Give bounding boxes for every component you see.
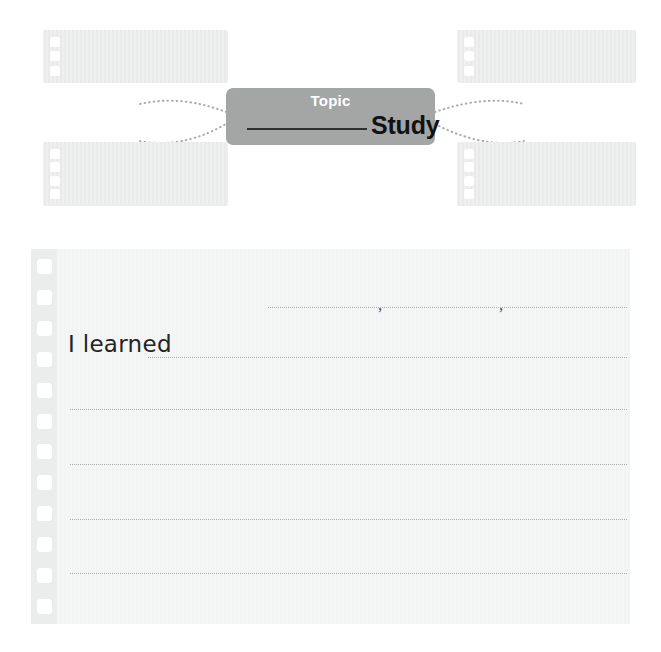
worksheet-page: Topic Study , , <box>0 0 661 652</box>
punch-hole-icon <box>37 352 52 367</box>
punch-hole-icon <box>50 189 60 199</box>
notebook-texture <box>31 249 630 624</box>
writing-line-1[interactable] <box>268 307 627 308</box>
writing-line-2[interactable] <box>148 357 627 358</box>
punch-hole-icon <box>37 290 52 305</box>
graphic-organizer: Topic Study <box>0 0 661 225</box>
notebook-paper: , , I learned <box>31 249 630 624</box>
connector-bottom-left <box>140 124 226 143</box>
note-paper-texture <box>457 142 636 206</box>
punch-hole-icon <box>50 37 60 47</box>
note-paper-texture <box>457 30 636 83</box>
punch-holes <box>462 30 475 83</box>
topic-label: Topic <box>226 92 435 110</box>
notebook-punch-holes <box>36 259 52 614</box>
connector-top-right <box>435 101 524 112</box>
punch-hole-icon <box>37 414 52 429</box>
punch-hole-icon <box>464 37 474 47</box>
punch-hole-icon <box>50 176 60 186</box>
writing-line-5[interactable] <box>70 519 627 520</box>
study-label: Study <box>371 110 439 140</box>
punch-hole-icon <box>37 383 52 398</box>
punch-hole-icon <box>464 189 474 199</box>
punch-hole-icon <box>37 475 52 490</box>
punch-holes <box>48 30 61 83</box>
note-box-top-left[interactable] <box>43 30 228 83</box>
punch-hole-icon <box>50 149 60 159</box>
writing-line-6[interactable] <box>70 573 627 574</box>
punch-hole-icon <box>50 162 60 172</box>
writing-line-4[interactable] <box>70 464 627 465</box>
punch-hole-icon <box>464 149 474 159</box>
i-learned-prompt: I learned <box>68 331 172 357</box>
topic-card[interactable]: Topic Study <box>226 88 435 145</box>
topic-blank-line[interactable] <box>247 128 367 130</box>
punch-hole-icon <box>464 162 474 172</box>
punch-hole-icon <box>464 66 474 76</box>
note-paper-texture <box>43 30 228 83</box>
note-box-bottom-left[interactable] <box>43 142 228 206</box>
punch-hole-icon <box>464 176 474 186</box>
punch-hole-icon <box>37 537 52 552</box>
comma-mark-1: , <box>378 301 382 309</box>
punch-hole-icon <box>37 599 52 614</box>
punch-hole-icon <box>37 259 52 274</box>
comma-mark-2: , <box>499 301 503 309</box>
punch-holes <box>462 142 475 206</box>
punch-hole-icon <box>37 444 52 459</box>
punch-hole-icon <box>37 321 52 336</box>
punch-hole-icon <box>464 51 474 61</box>
note-paper-texture <box>43 142 228 206</box>
punch-hole-icon <box>37 568 52 583</box>
connector-top-left <box>140 101 226 112</box>
note-box-top-right[interactable] <box>457 30 636 83</box>
writing-line-3[interactable] <box>70 409 627 410</box>
connector-bottom-right <box>435 124 524 143</box>
punch-hole-icon <box>50 66 60 76</box>
punch-hole-icon <box>50 51 60 61</box>
punch-hole-icon <box>37 506 52 521</box>
note-box-bottom-right[interactable] <box>457 142 636 206</box>
punch-holes <box>48 142 61 206</box>
